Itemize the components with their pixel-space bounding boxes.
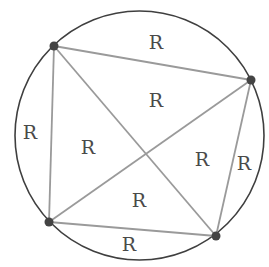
point-D <box>45 218 54 227</box>
region-left-segment-label: R <box>23 121 38 143</box>
region-top-segment-label: R <box>149 31 164 53</box>
region-inner-right-label: R <box>195 148 210 170</box>
region-bottom-segment-label: R <box>122 233 137 255</box>
chords-group <box>49 46 251 236</box>
region-inner-left-label: R <box>81 136 96 158</box>
point-A <box>50 42 59 51</box>
region-right-segment-label: R <box>237 152 252 174</box>
region-inner-bottom-label: R <box>132 189 147 211</box>
circle-region-diagram: RRRRRRRR <box>0 0 269 267</box>
point-B <box>247 76 256 85</box>
region-inner-top-label: R <box>149 89 164 111</box>
point-C <box>212 232 221 241</box>
chord-DA <box>49 46 54 222</box>
